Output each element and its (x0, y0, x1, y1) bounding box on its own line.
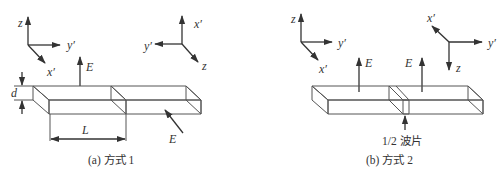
length-label: L (81, 123, 89, 137)
axis-label-x-prime: x′ (46, 65, 55, 79)
slab-left-face (312, 86, 328, 114)
e-field-label-right: E (404, 56, 413, 70)
figure-stage: z y′ x′ x′ y′ z E (0, 0, 502, 175)
axis-label-z: z (17, 16, 23, 30)
thickness-dimension: d (11, 72, 33, 114)
slab-front-face (49, 100, 126, 114)
waveplate-label: 1/2 波片 (382, 135, 422, 147)
slab-front-face (328, 100, 483, 114)
axes-triad-a-left: z y′ x′ (17, 16, 75, 79)
figure-b: z y′ x′ x′ y′ z E E (290, 11, 496, 167)
e-field-arrow-oblique (165, 110, 183, 133)
axis-label-x-prime: x′ (193, 17, 202, 31)
e-field-label-side: E (168, 132, 177, 146)
axis-label-x-prime: x′ (426, 11, 435, 25)
e-field-label: E (85, 60, 94, 74)
axis-label-x-prime: x′ (318, 62, 327, 76)
length-dimension: L (50, 114, 126, 141)
slab-left-face (33, 86, 49, 114)
slab-top-face-clear (111, 86, 201, 100)
axis-label-y-prime: y′ (66, 38, 75, 52)
axis-label-z: z (201, 59, 207, 73)
figure-a: z y′ x′ x′ y′ z E (11, 16, 207, 167)
axis-label-z: z (455, 61, 461, 75)
diagram-canvas: z y′ x′ x′ y′ z E (0, 0, 502, 175)
axes-triad-b-left: z y′ x′ (290, 12, 346, 76)
axes-triad-b-right: x′ y′ z (426, 11, 496, 75)
axis-label-z: z (290, 12, 296, 26)
axis-label-y-prime: y′ (337, 36, 346, 50)
axis-label-y-prime: y′ (143, 39, 152, 53)
caption-a: (a) 方式 1 (88, 153, 135, 167)
axis-label-y-prime: y′ (487, 36, 496, 50)
e-field-label-left: E (364, 56, 373, 70)
caption-b: (b) 方式 2 (366, 153, 413, 167)
slab-front-face-dotted (126, 100, 201, 114)
thickness-label: d (11, 86, 18, 100)
axes-triad-a-right: x′ y′ z (143, 16, 207, 73)
